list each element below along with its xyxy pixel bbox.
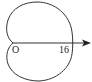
axis-value-label: 16 [59,45,69,55]
cardioid-diagram [0,0,92,82]
origin-label: O [12,45,19,55]
cardioid-curve [7,2,73,81]
